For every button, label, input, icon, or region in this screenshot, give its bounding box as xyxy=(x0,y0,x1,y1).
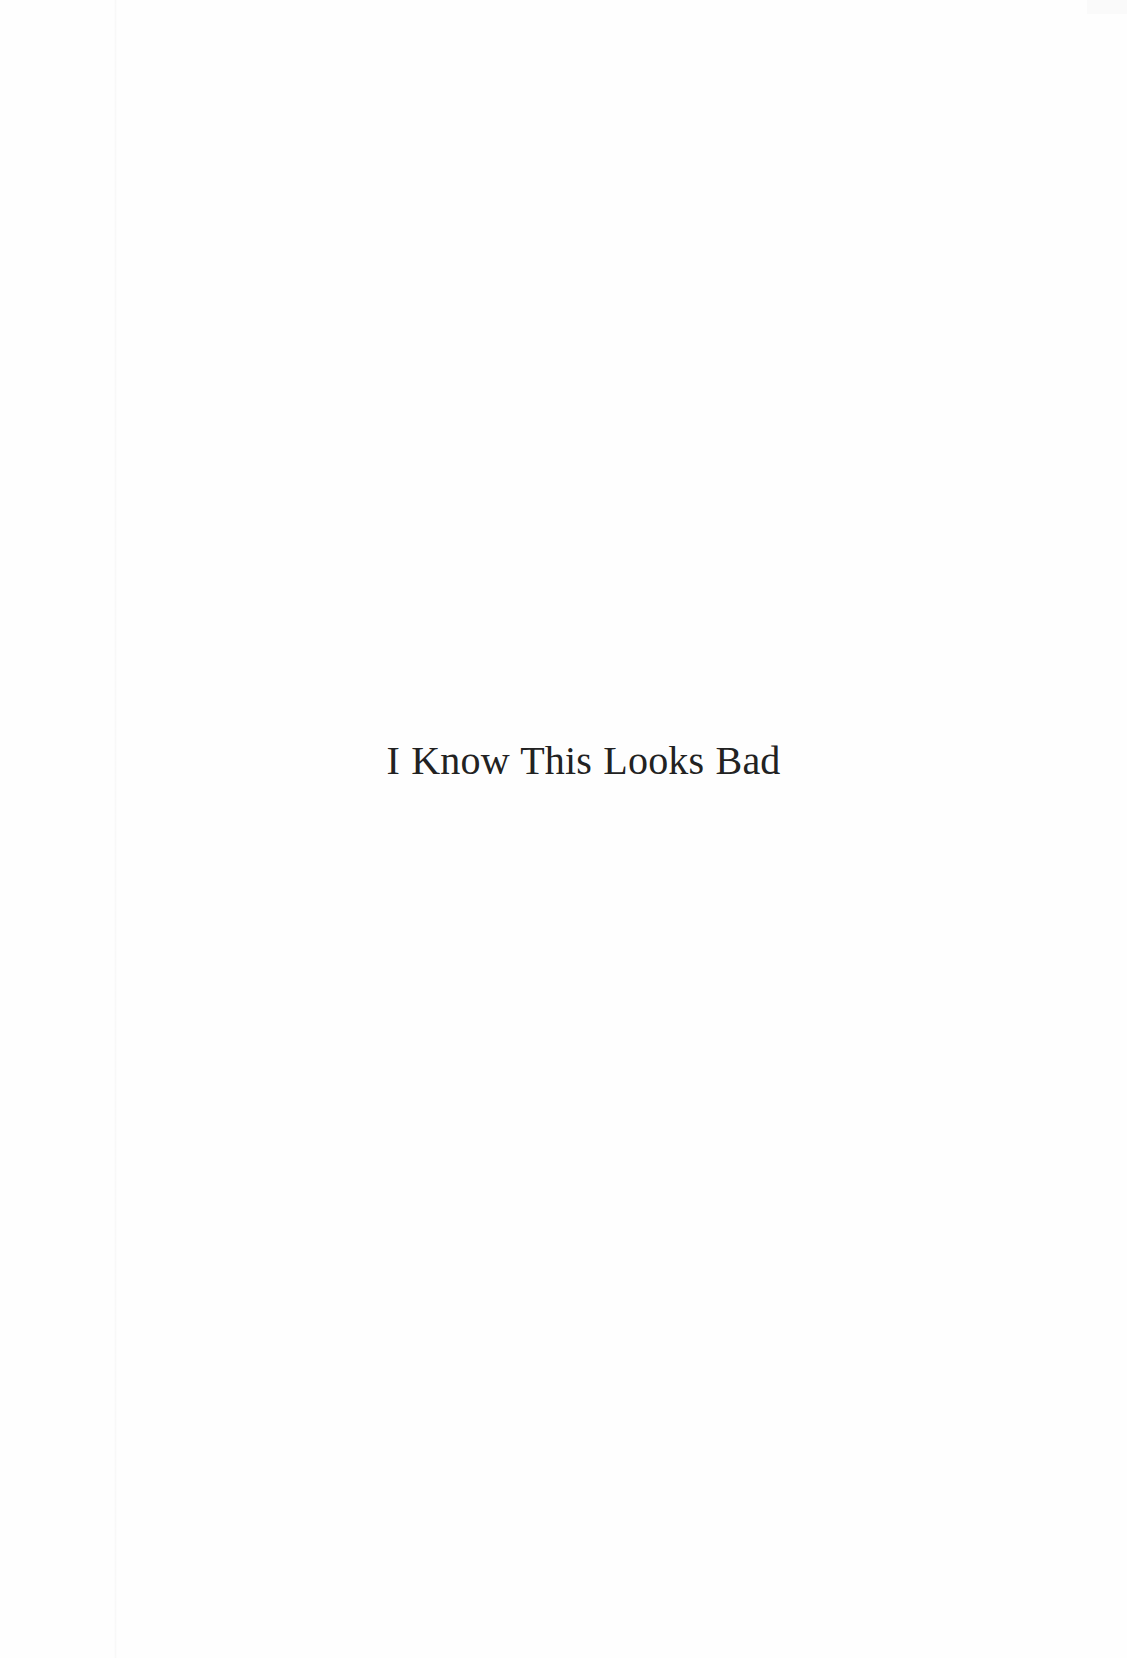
gutter-shadow xyxy=(114,0,117,1658)
book-page: I Know This Looks Bad xyxy=(0,0,1127,1658)
scan-artifact xyxy=(1087,0,1127,14)
half-title: I Know This Looks Bad xyxy=(0,737,1127,785)
